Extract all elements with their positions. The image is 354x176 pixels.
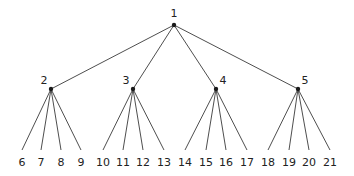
leaf-label-9: 9 [78, 156, 85, 169]
tree-edges [22, 25, 330, 150]
node-label-2: 2 [41, 74, 48, 87]
node-dot-2 [49, 87, 53, 91]
edge-5-20 [298, 89, 309, 150]
leaf-label-20: 20 [302, 156, 316, 169]
leaf-label-6: 6 [19, 156, 26, 169]
edge-2-7 [41, 89, 51, 150]
node-dot-4 [214, 87, 218, 91]
leaf-label-10: 10 [96, 156, 110, 169]
tree-nodes [49, 23, 300, 91]
leaf-label-18: 18 [261, 156, 275, 169]
tree-diagram: 678910111213141516171819202112345 [0, 0, 354, 176]
node-label-1: 1 [171, 7, 178, 20]
leaf-label-17: 17 [240, 156, 254, 169]
edge-1-4 [174, 25, 216, 89]
leaf-label-21: 21 [323, 156, 337, 169]
node-dot-1 [172, 23, 176, 27]
leaf-label-16: 16 [219, 156, 233, 169]
leaf-label-14: 14 [178, 156, 192, 169]
edge-2-6 [22, 89, 51, 150]
node-label-4: 4 [220, 74, 227, 87]
edge-2-9 [51, 89, 81, 150]
leaf-label-13: 13 [157, 156, 171, 169]
leaf-label-19: 19 [282, 156, 296, 169]
node-label-3: 3 [123, 74, 130, 87]
leaf-label-15: 15 [199, 156, 213, 169]
leaf-label-8: 8 [58, 156, 65, 169]
leaf-label-12: 12 [136, 156, 150, 169]
edge-5-21 [298, 89, 330, 150]
node-dot-5 [296, 87, 300, 91]
node-label-5: 5 [302, 74, 309, 87]
edge-3-10 [103, 89, 133, 150]
leaf-label-11: 11 [116, 156, 130, 169]
edge-1-3 [133, 25, 174, 89]
leaf-label-7: 7 [38, 156, 45, 169]
edge-1-5 [174, 25, 298, 89]
edge-1-2 [51, 25, 174, 89]
node-dot-3 [131, 87, 135, 91]
